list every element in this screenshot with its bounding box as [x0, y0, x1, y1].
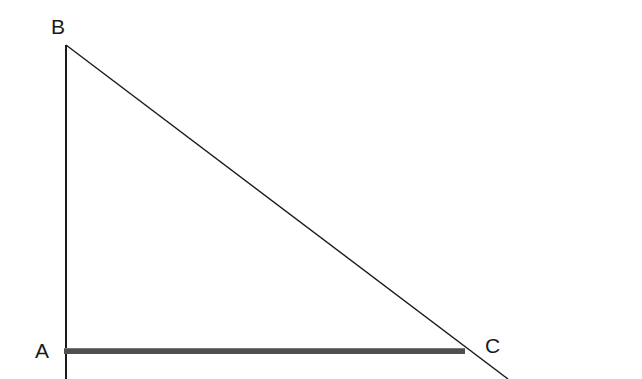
- vertex-label-a: A: [35, 340, 49, 361]
- segment-bc-hypotenuse: [66, 45, 508, 379]
- triangle-diagram-svg: [0, 0, 642, 379]
- vertex-label-c: C: [485, 335, 500, 356]
- geometry-figure-canvas: B A C: [0, 0, 642, 379]
- vertex-label-b: B: [51, 16, 65, 37]
